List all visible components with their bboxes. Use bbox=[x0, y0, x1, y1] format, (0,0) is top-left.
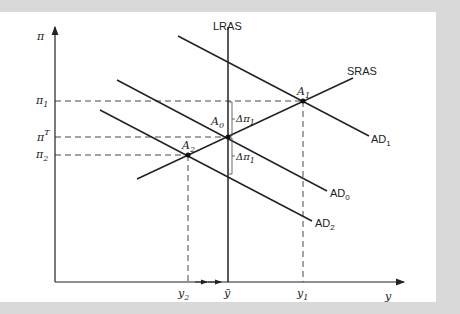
label-ad1: AD1 bbox=[371, 133, 391, 148]
guide-lines bbox=[55, 101, 303, 282]
point-a0 bbox=[226, 135, 231, 140]
delta-bracket-up bbox=[229, 102, 232, 136]
ad1-curve bbox=[178, 36, 369, 136]
tick-pi1: π1 bbox=[35, 94, 48, 109]
y-axis-label: π bbox=[36, 30, 45, 43]
ad-as-diagram: π y π1 πT π2 y2 ȳ y1 LRAS SRAS AD1 AD0 A… bbox=[0, 0, 460, 314]
label-sras: SRAS bbox=[347, 65, 377, 77]
label-delta-up: Δπ1 bbox=[235, 113, 255, 127]
label-a2: A2 bbox=[181, 139, 195, 154]
tick-y2: y2 bbox=[177, 287, 189, 302]
tick-pi2: π2 bbox=[35, 148, 48, 163]
label-ad2: AD2 bbox=[315, 217, 335, 232]
tick-y1: y1 bbox=[296, 287, 308, 302]
sras-curve bbox=[137, 78, 353, 179]
delta-bracket-down bbox=[229, 138, 232, 174]
label-a0: A0 bbox=[210, 115, 224, 130]
x-axis-label: y bbox=[384, 290, 392, 303]
label-delta-down: Δπ1 bbox=[235, 151, 255, 165]
tick-ybar: ȳ bbox=[223, 287, 231, 300]
label-lras: LRAS bbox=[213, 20, 242, 32]
label-a1: A1 bbox=[296, 85, 310, 100]
tick-pi-target: πT bbox=[36, 128, 50, 144]
label-ad0: AD0 bbox=[330, 187, 350, 202]
